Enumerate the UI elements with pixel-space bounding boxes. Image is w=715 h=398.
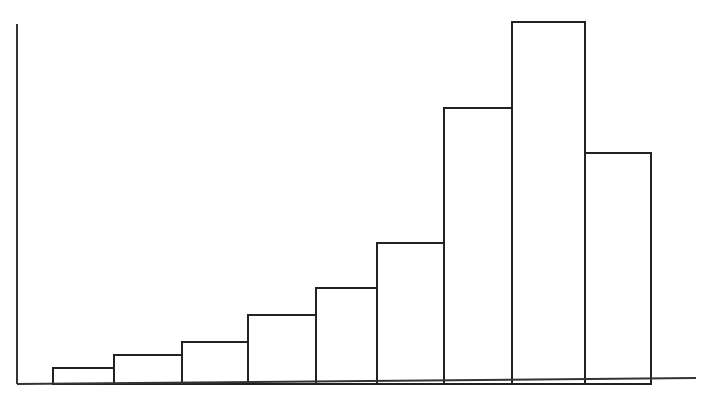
histogram-bar (182, 342, 248, 384)
histogram-bar (377, 243, 444, 384)
histogram-bar (512, 22, 585, 384)
histogram-bar (316, 288, 377, 384)
histogram-bars (53, 22, 651, 384)
histogram-chart (0, 0, 715, 398)
histogram-bar (585, 153, 651, 384)
histogram-bar (53, 368, 114, 384)
histogram-bar (114, 355, 182, 384)
histogram-bar (248, 315, 316, 384)
histogram-bar (444, 108, 512, 384)
